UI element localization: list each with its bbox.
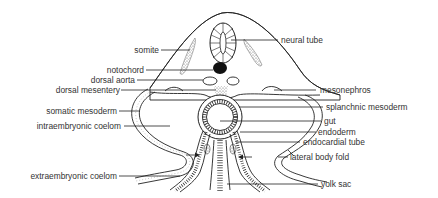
label-dorsal-mesentery: dorsal mesentery [56, 85, 121, 95]
ectoderm-outline [150, 12, 340, 95]
label-notochord: notochord [107, 65, 145, 75]
label-intraembryonic-coelom: intraembryonic coelom [37, 121, 121, 131]
label-yolk-sac: yolk sac [321, 179, 351, 189]
left-body-wall [132, 89, 194, 184]
label-somite: somite [134, 45, 159, 55]
gut-tube [198, 95, 242, 139]
label-endoderm: endoderm [318, 127, 356, 137]
label-neural-tube: neural tube [281, 35, 323, 45]
label-extraembryonic-coelom: extraembryonic coelom [30, 171, 117, 181]
dorsal-aorta-left [203, 77, 217, 85]
label-gut: gut [324, 116, 336, 126]
mesonephros-left [165, 87, 183, 91]
dorsal-aorta-right [227, 77, 239, 85]
label-dorsal-aorta: dorsal aorta [91, 75, 136, 85]
fold-arrow-left [186, 153, 200, 158]
label-somatic-mesoderm: somatic mesoderm [46, 106, 117, 116]
label-lateral-body-fold: lateral body fold [290, 152, 349, 162]
label-endocardial-tube: endocardial tube [303, 137, 365, 147]
neural-tube [210, 23, 236, 63]
ventral-splanchnopleure [170, 131, 270, 192]
somite-right [244, 39, 262, 66]
label-splanchnic-mesoderm: splanchnic mesoderm [326, 102, 407, 112]
label-mesonephros: mesonephros [320, 85, 371, 95]
notochord [213, 62, 227, 74]
embryo-cross-section-diagram: somite notochord dorsal aorta dorsal mes… [0, 0, 438, 198]
coelom-roof [150, 92, 320, 99]
ectoderm-dome [150, 12, 340, 100]
